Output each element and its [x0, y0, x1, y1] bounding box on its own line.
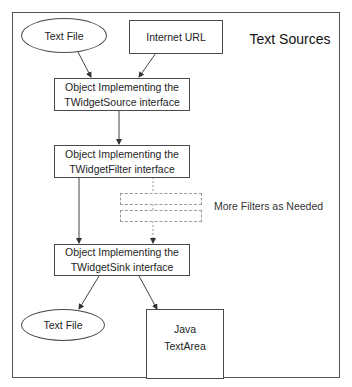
text-file-source-label: Text File: [44, 30, 83, 42]
arrow-sink-to-textfile: [79, 276, 99, 309]
more-filters-label: More Filters as Needed: [214, 199, 334, 214]
internet-url-source: Internet URL: [129, 20, 223, 54]
more-filter-box-1: [120, 193, 202, 205]
text-file-sink-label: Text File: [43, 319, 82, 331]
arrow-sink-to-textarea: [139, 276, 157, 309]
more-filter-box-2: [120, 210, 202, 222]
arrow-textfile-to-source: [78, 52, 91, 77]
source-object-line1: Object Implementing the: [65, 80, 179, 95]
java-textarea-sink: Java TextArea: [146, 309, 224, 379]
arrow-url-to-source: [139, 53, 156, 77]
sink-object-line2: TWidgetSink interface: [71, 260, 174, 275]
source-object-line2: TWidgetSource interface: [64, 95, 180, 110]
text-file-sink: Text File: [21, 309, 105, 341]
source-object-box: Object Implementing the TWidgetSource in…: [54, 78, 190, 111]
java-textarea-line1: Java: [174, 322, 196, 337]
internet-url-label: Internet URL: [146, 31, 206, 43]
java-textarea-line2: TextArea: [164, 339, 205, 354]
text-file-source: Text File: [21, 18, 107, 53]
filter-object-box: Object Implementing the TWidgetFilter in…: [54, 145, 190, 178]
diagram-title: Text Sources: [245, 30, 335, 48]
sink-object-line1: Object Implementing the: [65, 245, 179, 260]
sink-object-box: Object Implementing the TWidgetSink inte…: [54, 244, 190, 276]
filter-object-line2: TWidgetFilter interface: [69, 162, 175, 177]
text-pipeline-diagram: Text File Internet URL Text Sources Obje…: [0, 0, 352, 387]
filter-object-line1: Object Implementing the: [65, 147, 179, 162]
